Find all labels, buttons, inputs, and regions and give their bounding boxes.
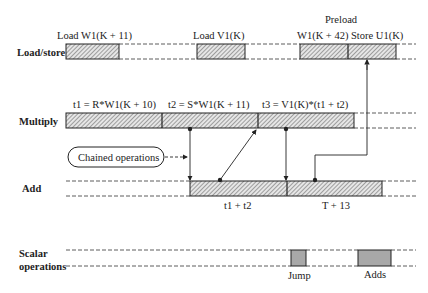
row-label-scalar-1: Scalar xyxy=(19,248,48,259)
multiply-bar xyxy=(66,113,354,128)
add-bar xyxy=(190,181,382,196)
preload-label: Preload xyxy=(325,14,358,25)
preload-store-label: W1(K + 42) Store U1(K) xyxy=(297,30,404,42)
load-v1-label: Load V1(K) xyxy=(193,30,245,42)
mult-t2-label: t2 = S*W1(K + 11) xyxy=(168,99,250,111)
load-store-lane xyxy=(66,44,416,59)
mult-t3-label: t3 = V1(K)*(t1 + t2) xyxy=(262,99,349,111)
jump-label: Jump xyxy=(288,270,311,281)
load-w1-label: Load W1(K + 11) xyxy=(57,30,133,42)
multiply-lane xyxy=(66,113,416,128)
load-v1-bar xyxy=(197,44,245,59)
scalar-lane xyxy=(66,250,416,266)
add-t1t2-label: t1 + t2 xyxy=(224,200,252,211)
mult-t1-label: t1 = R*W1(K + 10) xyxy=(73,99,157,111)
row-label-scalar-2: operations xyxy=(19,261,66,272)
adds-label: Adds xyxy=(364,269,386,280)
row-label-add: Add xyxy=(22,183,41,194)
add-t13-label: T + 13 xyxy=(322,200,350,211)
row-label-load-store: Load/store xyxy=(17,47,66,58)
row-label-multiply: Multiply xyxy=(19,116,59,127)
pipeline-timing-diagram: Load/store Multiply Add Scalar operation… xyxy=(0,0,428,293)
chained-operations-callout: Chained operations xyxy=(68,147,187,167)
load-w1-bar xyxy=(66,44,119,59)
jump-box xyxy=(291,250,306,266)
adds-box xyxy=(358,250,391,266)
add-lane xyxy=(66,181,416,196)
callout-label: Chained operations xyxy=(78,152,159,163)
